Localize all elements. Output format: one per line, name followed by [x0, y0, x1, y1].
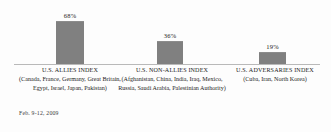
category-members: (Cuba, Iran, North Korea): [220, 75, 330, 84]
category-labels: U.S. ALLIES INDEX (Canada, France, Germa…: [0, 66, 331, 108]
bar-rect: [259, 52, 286, 64]
bar-group: 36%: [157, 32, 183, 64]
bar-group: 19%: [259, 43, 286, 64]
bar-group: 68%: [56, 12, 84, 64]
category-members: (Canada, France, Germany, Great Britain,…: [16, 75, 124, 92]
category-label: U.S. ADVERSARIES INDEX (Cuba, Iran, Nort…: [220, 66, 330, 84]
bar-chart: 68% 36% 19% U.S. ALLIES INDEX (Canada, F…: [0, 0, 331, 132]
category-label: U.S. ALLIES INDEX (Canada, France, Germa…: [16, 66, 124, 92]
category-title: U.S. ALLIES INDEX: [16, 66, 124, 75]
category-members: (Afghanistan, China, India, Iraq, Mexico…: [118, 75, 226, 92]
bar-value-label: 68%: [64, 12, 77, 20]
bar-value-label: 36%: [164, 32, 177, 40]
bar-rect: [157, 41, 183, 64]
plot-area: 68% 36% 19%: [0, 0, 331, 65]
survey-date-footnote: Feb. 9-12, 2009: [19, 109, 59, 117]
x-axis-baseline: [14, 64, 320, 65]
category-label: U.S. NON-ALLIES INDEX (Afghanistan, Chin…: [118, 66, 226, 92]
bar-rect: [56, 21, 84, 64]
category-title: U.S. NON-ALLIES INDEX: [118, 66, 226, 75]
category-title: U.S. ADVERSARIES INDEX: [220, 66, 330, 75]
bar-value-label: 19%: [266, 43, 279, 51]
